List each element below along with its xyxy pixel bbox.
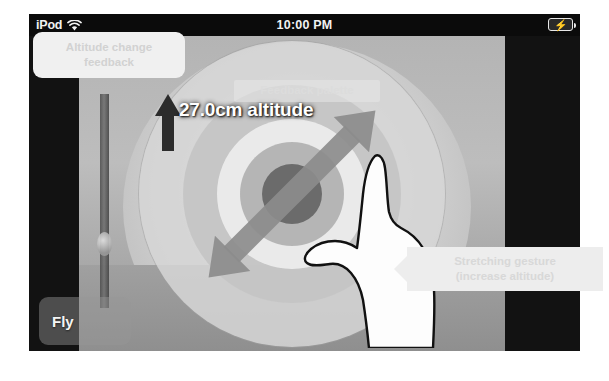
scene-pole-knob	[97, 232, 112, 256]
annotation-stretching-gesture: Stretching gesture (increase altitude)	[407, 247, 603, 291]
fly-button-label: Fly	[52, 313, 74, 330]
annotation-line-1: Feedback palette	[260, 83, 353, 98]
screenshot-page: iPod 10:00 PM ⚡	[0, 0, 609, 381]
annotation-feedback-palette: Feedback palette	[234, 80, 380, 102]
altitude-unit-label: altitude	[247, 99, 313, 120]
annotation-altitude-change-feedback: Altitude change feedback	[33, 32, 185, 78]
annotation-line-1: Altitude change	[66, 40, 152, 55]
fly-button[interactable]: Fly	[39, 297, 131, 345]
scene-pole	[100, 94, 109, 308]
annotation-line-1: Stretching gesture	[454, 254, 556, 269]
arrow-up-head	[155, 94, 181, 116]
altitude-value: 27.0cm	[179, 99, 242, 120]
status-bar-right: ⚡	[548, 18, 573, 31]
annotation-line-2: (increase altitude)	[456, 269, 554, 284]
battery-charging-icon: ⚡	[548, 18, 573, 31]
annotation-line-2: feedback	[84, 55, 134, 70]
arrow-up-icon	[155, 94, 181, 151]
arrow-up-shaft	[162, 115, 174, 151]
